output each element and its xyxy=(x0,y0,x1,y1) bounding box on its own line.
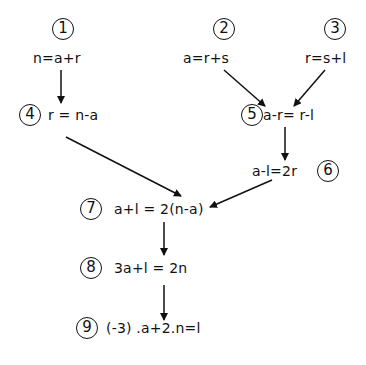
node-equation-7: a+l = 2(n-a) xyxy=(114,201,204,217)
node-equation-9: (-3) .a+2.n=l xyxy=(106,320,201,336)
node-number-4: 4 xyxy=(19,104,41,126)
node-equation-6: a-l=2r xyxy=(252,163,297,179)
node-number-8: 8 xyxy=(80,257,102,279)
node-equation-4: r = n-a xyxy=(48,107,98,123)
node-number-1: 1 xyxy=(52,18,74,40)
node-equation-5: a-r= r-l xyxy=(263,107,314,123)
edge-4-7 xyxy=(66,137,181,196)
node-equation-3: r=s+l xyxy=(305,50,346,66)
node-number-6: 6 xyxy=(317,160,339,182)
node-number-7: 7 xyxy=(80,198,102,220)
node-equation-1: n=a+r xyxy=(33,50,81,66)
node-number-9: 9 xyxy=(76,317,98,339)
node-equation-8: 3a+l = 2n xyxy=(114,260,187,276)
edge-3-5 xyxy=(294,70,325,106)
edge-6-7 xyxy=(210,180,272,207)
edge-2-5 xyxy=(224,70,265,106)
node-number-5: 5 xyxy=(241,104,263,126)
node-equation-2: a=r+s xyxy=(183,50,229,66)
node-number-3: 3 xyxy=(324,18,346,40)
node-number-2: 2 xyxy=(213,18,235,40)
